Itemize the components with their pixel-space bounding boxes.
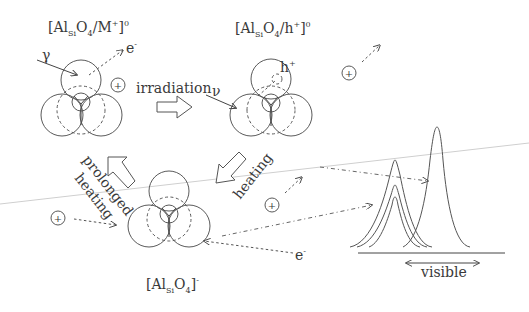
emission-pointer-line-1 xyxy=(320,167,428,181)
cation-plus-4: + xyxy=(268,200,276,211)
electron-ejection-arrow xyxy=(89,50,123,75)
label-initial: [AlSiO4/M+]0 xyxy=(48,19,129,38)
small-peak-curve-1 xyxy=(350,160,432,247)
oxygen-left-circle xyxy=(41,94,83,136)
hole-label: h+ xyxy=(280,59,296,75)
cation-escape-arrow-2 xyxy=(285,177,302,193)
label-heated: [AlSiO4]- xyxy=(146,276,199,295)
oxygen-right-circle xyxy=(270,94,312,136)
cation-plus-1: + xyxy=(114,80,122,91)
emission-spectrum: visible xyxy=(350,127,505,280)
electron-label-top: e- xyxy=(126,40,137,56)
irradiation-arrow xyxy=(157,96,192,118)
cation-return-arrow xyxy=(74,219,116,225)
irradiation-label: irradiation xyxy=(136,80,212,96)
cation-plus-3: + xyxy=(54,213,62,224)
cation-plus-2: + xyxy=(345,68,353,79)
cation-escape-arrow xyxy=(362,45,380,62)
small-peak-curve-2 xyxy=(357,185,427,247)
bond-lines xyxy=(162,208,176,237)
oxygen-right-circle xyxy=(80,94,122,136)
gamma-symbol: γ xyxy=(42,47,50,63)
oxygen-left-circle xyxy=(230,94,272,136)
tl-mechanism-diagram: [AlSiO4/M+]0 γ e- + irradiation [AlSiO4/… xyxy=(0,0,529,312)
label-irradiated: [AlSiO4/h+]0 xyxy=(235,20,311,39)
emission-pointer-line-2 xyxy=(222,205,372,236)
tall-peak-curve xyxy=(403,127,470,247)
nu-symbol: ν xyxy=(212,83,221,99)
visible-label: visible xyxy=(420,264,467,280)
photon-arrow xyxy=(206,95,236,108)
electron-label-bottom: e- xyxy=(295,247,306,263)
bond-lines xyxy=(264,97,278,126)
oxygen-top-circle xyxy=(61,60,101,100)
electron-capture-arrow xyxy=(204,241,293,253)
cluster-initial: [AlSiO4/M+]0 γ e- + xyxy=(37,19,137,136)
